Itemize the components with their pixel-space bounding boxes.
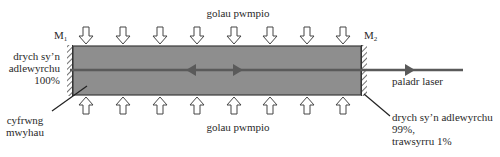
mirror-right-label: M2 — [364, 29, 377, 45]
pump-arrow-up-icon — [79, 97, 93, 114]
pump-arrow-up-icon — [227, 97, 241, 114]
mirror-right-pointer — [364, 94, 390, 116]
gain-medium-label: cyfrwng mwyhau — [0, 114, 50, 138]
laser-beam-label: paladr laser — [392, 75, 443, 87]
pump-arrow-down-icon — [263, 27, 277, 44]
pump-arrow-up-icon — [263, 97, 277, 114]
pump-arrow-up-icon — [190, 97, 204, 114]
pump-arrow-down-icon — [153, 27, 167, 44]
mirror-left-label: M1 — [54, 29, 67, 45]
mirror-right-desc-line2: 99%, — [392, 123, 493, 135]
pump-arrow-down-icon — [227, 27, 241, 44]
mirror-right-id: M — [364, 29, 374, 41]
mirror-left-desc-line1: drych sy’n — [0, 50, 60, 62]
mirror-right-desc-line1: drych sy’n adlewyrchu — [392, 111, 493, 123]
mirror-left-desc-line3: 100% — [0, 74, 60, 86]
pump-arrow-up-icon — [300, 97, 314, 114]
pump-arrows-bottom — [79, 97, 350, 114]
mirror-right-description: drych sy’n adlewyrchu 99%, trawsyrru 1% — [392, 111, 493, 147]
gain-medium-line2: mwyhau — [0, 126, 50, 138]
pump-arrow-down-icon — [79, 27, 93, 44]
pump-light-label-bottom: golau pwmpio — [183, 121, 293, 133]
pump-arrow-up-icon — [153, 97, 167, 114]
pump-arrows-top — [79, 27, 350, 44]
pump-arrow-down-icon — [300, 27, 314, 44]
mirror-left-description: drych sy’n adlewyrchu 100% — [0, 50, 60, 86]
gain-medium-line1: cyfrwng — [0, 114, 50, 126]
pump-arrow-down-icon — [116, 27, 130, 44]
mirror-left-desc-line2: adlewyrchu — [0, 62, 60, 74]
pump-arrow-down-icon — [190, 27, 204, 44]
pump-arrow-up-icon — [116, 97, 130, 114]
mirror-right-sub: 2 — [374, 35, 378, 43]
pump-arrow-up-icon — [336, 97, 350, 114]
pump-arrow-down-icon — [336, 27, 350, 44]
mirror-right-desc-line3: trawsyrru 1% — [392, 135, 493, 147]
mirror-left-sub: 1 — [64, 35, 68, 43]
pump-light-label-top: golau pwmpio — [183, 7, 293, 19]
mirror-left-id: M — [54, 29, 64, 41]
